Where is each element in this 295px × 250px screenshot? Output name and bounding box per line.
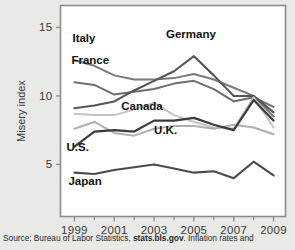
series-label-italy: Italy [72,32,96,44]
series-label-u-k: U.K. [154,124,177,136]
series-label-germany: Germany [166,28,216,40]
series-label-u-s: U.S. [66,141,88,153]
series-label-japan: Japan [68,175,101,187]
source-note: Source: Bureau of Labor Statistics, stat… [3,233,295,243]
y-tick-label-10: 10 [39,90,53,102]
misery-index-line-chart: 51015199920012003200520072009Misery inde… [0,0,295,250]
series-label-canada: Canada [121,100,163,112]
y-tick-label-15: 15 [39,21,53,33]
source-link: stats.bls.gov [133,233,184,243]
source-prefix: Source: Bureau of Labor Statistics, [3,233,133,243]
series-label-france: France [71,54,109,66]
source-suffix: . Inflation rates and [184,233,254,243]
y-tick-label-5: 5 [46,158,53,170]
y-axis-title: Misery index [15,80,27,142]
chart-figure: 51015199920012003200520072009Misery inde… [0,0,295,250]
